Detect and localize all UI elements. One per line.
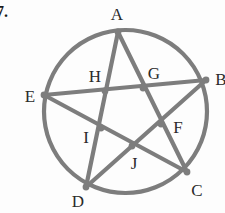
vertex-label-d: D <box>72 193 84 210</box>
vertex-label-e: E <box>25 88 35 105</box>
vertex-label-c: C <box>191 182 202 199</box>
vertex-node-e <box>41 92 48 99</box>
vertex-label-g: G <box>148 65 160 82</box>
vertex-node-j <box>129 143 136 150</box>
pentagram-figure: 7. ABCDEFGHIJ <box>0 0 225 213</box>
vertex-label-f: F <box>173 119 182 136</box>
vertex-label-i: I <box>83 129 89 146</box>
vertex-node-f <box>158 121 165 128</box>
vertex-label-a: A <box>111 6 123 23</box>
vertex-node-d <box>83 184 90 191</box>
vertex-label-h: H <box>89 68 101 85</box>
vertex-node-b <box>203 77 210 84</box>
vertex-label-b: B <box>215 71 225 88</box>
chord-E-B <box>44 80 206 95</box>
vertex-node-h <box>102 88 109 95</box>
vertex-node-a <box>115 29 122 36</box>
vertex-node-i <box>98 125 105 132</box>
vertex-node-c <box>184 169 191 176</box>
vertex-node-g <box>140 85 147 92</box>
vertex-label-j: J <box>131 155 138 172</box>
